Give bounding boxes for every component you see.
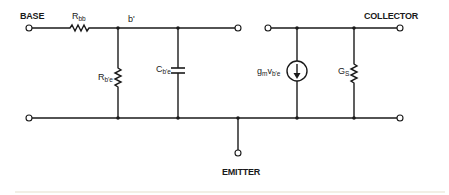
label-b-prime: b' bbox=[128, 14, 135, 24]
node-gm-top bbox=[295, 26, 299, 30]
label-base: BASE bbox=[20, 11, 44, 21]
terminal-emitter bbox=[235, 150, 241, 156]
terminal-internal-right bbox=[265, 25, 271, 31]
node-gm-bottom bbox=[295, 116, 299, 120]
resistor-gs bbox=[351, 28, 357, 118]
resistor-rbb bbox=[68, 25, 90, 31]
label-cbe: Cb'e bbox=[156, 64, 171, 75]
terminal-base-return bbox=[26, 115, 32, 121]
terminal-collector bbox=[397, 25, 403, 31]
capacitor-cbe bbox=[171, 28, 185, 118]
label-gm-vbe: gmvb'e bbox=[257, 66, 281, 77]
node-cbe-bottom bbox=[176, 116, 180, 120]
label-collector: COLLECTOR bbox=[364, 11, 419, 21]
label-gs: GS bbox=[338, 66, 350, 77]
terminal-collector-return bbox=[397, 115, 403, 121]
node-b-prime bbox=[116, 26, 120, 30]
node-emitter bbox=[236, 116, 240, 120]
node-gs-bottom bbox=[352, 116, 356, 120]
label-rbb: Rbb bbox=[72, 11, 86, 22]
terminal-base bbox=[26, 25, 32, 31]
current-source-gm bbox=[287, 28, 307, 118]
terminal-internal-left bbox=[235, 25, 241, 31]
node-rbe-bottom bbox=[116, 116, 120, 120]
node-gs-top bbox=[352, 26, 356, 30]
circuit-diagram: BASE COLLECTOR EMITTER b' Rbb Rb'e Cb'e … bbox=[0, 0, 449, 195]
junction-nodes bbox=[116, 26, 356, 120]
arrow-down-icon bbox=[294, 73, 301, 79]
resistor-rbe bbox=[115, 28, 121, 118]
node-cbe-top bbox=[176, 26, 180, 30]
label-emitter: EMITTER bbox=[222, 167, 261, 177]
label-rbe: Rb'e bbox=[98, 72, 113, 83]
